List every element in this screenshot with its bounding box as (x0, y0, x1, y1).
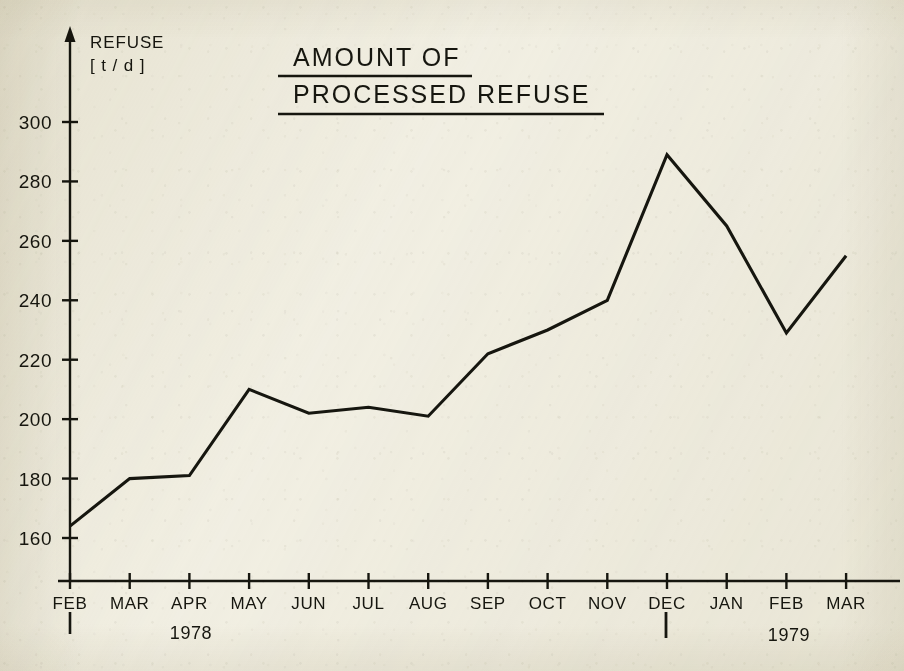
x-axis-tick-label: MAY (230, 594, 267, 613)
y-axis-name-line-1: REFUSE (90, 33, 164, 52)
data-series-line (70, 155, 846, 526)
year-label-1979: 1979 (768, 625, 810, 645)
x-axis-tick-label: FEB (53, 594, 88, 613)
line-chart: AMOUNT OF PROCESSED REFUSE REFUSE [ t / … (0, 0, 904, 671)
x-axis-tick-labels: FEBMARAPRMAYJUNJULAUGSEPOCTNOVDECJANFEBM… (53, 594, 866, 613)
y-axis-tick-label: 200 (19, 409, 52, 430)
y-axis-tick-label: 280 (19, 171, 52, 192)
x-axis-tick-label: SEP (470, 594, 506, 613)
axis-lines (58, 26, 900, 581)
x-axis-tick-label: JAN (710, 594, 744, 613)
x-axis-tick-label: MAR (826, 594, 866, 613)
y-axis-name-line-2: [ t / d ] (90, 56, 145, 75)
chart-title: AMOUNT OF PROCESSED REFUSE (278, 43, 604, 114)
y-axis-tick-label: 220 (19, 350, 52, 371)
x-axis-tick-label: OCT (529, 594, 567, 613)
year-group-markers: 1978 1979 (70, 612, 810, 645)
y-axis-tick-label: 260 (19, 231, 52, 252)
y-axis-tick-label: 240 (19, 290, 52, 311)
x-axis-tick-label: NOV (588, 594, 627, 613)
x-axis-tick-label: JUN (291, 594, 326, 613)
figure-page: AMOUNT OF PROCESSED REFUSE REFUSE [ t / … (0, 0, 904, 671)
x-axis-tick-label: FEB (769, 594, 804, 613)
y-axis-arrowhead (65, 26, 76, 42)
title-line-1: AMOUNT OF (293, 43, 461, 71)
title-line-2: PROCESSED REFUSE (293, 80, 590, 108)
x-axis-tick-label: APR (171, 594, 208, 613)
year-label-1978: 1978 (170, 623, 212, 643)
x-axis-tick-label: AUG (409, 594, 448, 613)
x-axis-tick-label: DEC (648, 594, 686, 613)
x-axis-tick-label: JUL (352, 594, 384, 613)
x-axis-tick-label: MAR (110, 594, 150, 613)
y-axis-title: REFUSE [ t / d ] (90, 33, 164, 75)
y-axis-tick-label: 160 (19, 528, 52, 549)
y-axis-tick-label: 180 (19, 469, 52, 490)
y-axis-tick-label: 300 (19, 112, 52, 133)
